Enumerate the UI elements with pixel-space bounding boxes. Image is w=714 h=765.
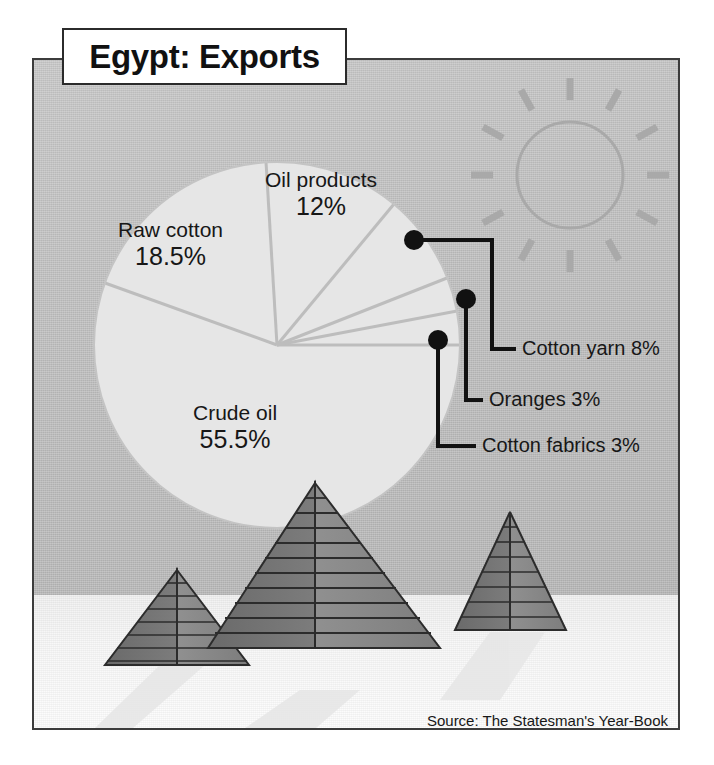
page-title: Egypt: Exports	[89, 38, 320, 76]
callout-label-oranges: Oranges 3%	[489, 388, 600, 411]
sky-background	[34, 60, 678, 595]
pie-label-crude-oil-name: Crude oil	[193, 401, 277, 425]
sand-background	[34, 595, 678, 730]
pie-label-oil-products-percent: 12%	[265, 192, 377, 220]
callout-label-cotton-fabrics: Cotton fabrics 3%	[482, 434, 640, 457]
pie-label-raw-cotton-percent: 18.5%	[118, 242, 223, 270]
pie-label-oil-products-name: Oil products	[265, 168, 377, 192]
source-attribution: Source: The Statesman's Year-Book	[427, 712, 668, 729]
pie-label-raw-cotton-name: Raw cotton	[118, 218, 223, 242]
title-plate: Egypt: Exports	[62, 28, 347, 85]
infographic-root: Egypt: Exports Raw cotton 18.5% Oil prod…	[0, 0, 714, 765]
callout-label-cotton-yarn: Cotton yarn 8%	[522, 337, 660, 360]
pie-label-oil-products: Oil products 12%	[265, 168, 377, 220]
pie-label-raw-cotton: Raw cotton 18.5%	[118, 218, 223, 270]
pie-label-crude-oil: Crude oil 55.5%	[193, 401, 277, 453]
pie-label-crude-oil-percent: 55.5%	[193, 425, 277, 453]
